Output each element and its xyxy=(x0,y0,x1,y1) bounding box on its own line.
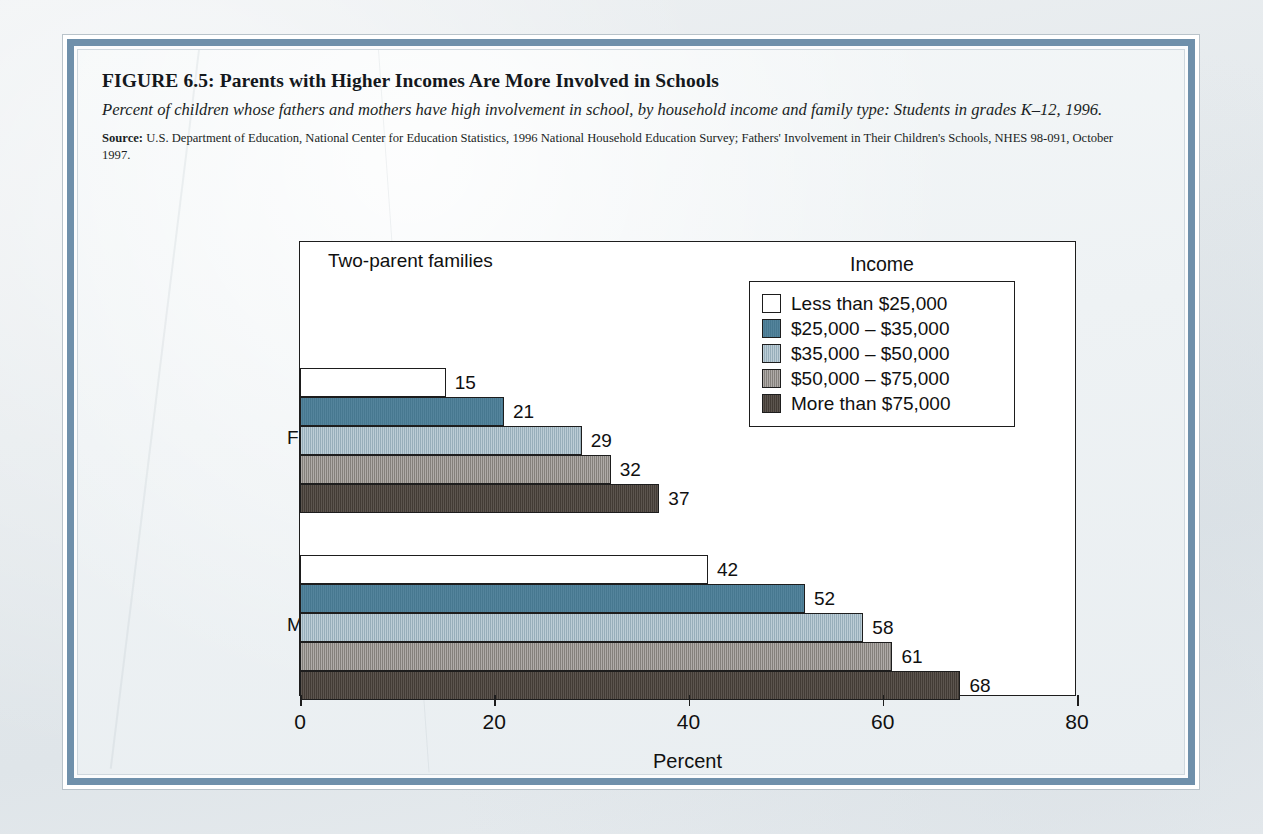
x-tick xyxy=(494,695,496,706)
legend-item[interactable]: More than $75,000 xyxy=(762,391,1002,416)
bar-value-label: 32 xyxy=(620,459,641,481)
legend-item[interactable]: $50,000 – $75,000 xyxy=(762,366,1002,391)
bar-row: 42 xyxy=(300,555,1075,584)
page-title: FIGURE 6.5: Parents with Higher Incomes … xyxy=(102,70,1156,92)
legend-item-label: $50,000 – $75,000 xyxy=(791,368,950,390)
legend-swatch-icon xyxy=(762,319,781,338)
bar-mothers-3[interactable] xyxy=(300,642,892,671)
x-tick-label: 40 xyxy=(677,710,700,734)
source-text: U.S. Department of Education, National C… xyxy=(102,131,1113,162)
legend-item[interactable]: $35,000 – $50,000 xyxy=(762,341,1002,366)
bar-mothers-2[interactable] xyxy=(300,613,863,642)
bar-row: 52 xyxy=(300,584,1075,613)
legend-title: Income xyxy=(749,253,1015,276)
panel-label: Two-parent families xyxy=(328,250,493,272)
bar-fathers-4[interactable] xyxy=(300,484,659,513)
x-tick xyxy=(883,695,885,706)
figure-header: FIGURE 6.5: Parents with Higher Incomes … xyxy=(102,70,1156,163)
legend-box: Less than $25,000$25,000 – $35,000$35,00… xyxy=(749,281,1015,427)
bar-fathers-1[interactable] xyxy=(300,397,504,426)
bar-value-label: 15 xyxy=(455,372,476,394)
x-tick-label: 80 xyxy=(1065,710,1088,734)
bar-mothers-1[interactable] xyxy=(300,584,805,613)
figure-subtitle: Percent of children whose fathers and mo… xyxy=(102,97,1148,123)
source-label: Source: xyxy=(102,131,143,145)
legend-swatch-icon xyxy=(762,344,781,363)
bar-value-label: 21 xyxy=(513,401,534,423)
bar-fathers-3[interactable] xyxy=(300,455,611,484)
bar-row: 32 xyxy=(300,455,1075,484)
bar-row: 58 xyxy=(300,613,1075,642)
bar-value-label: 68 xyxy=(969,675,990,697)
legend-item-label: $35,000 – $50,000 xyxy=(791,343,950,365)
x-axis: 020406080 xyxy=(300,695,1075,696)
x-tick-label: 20 xyxy=(483,710,506,734)
x-tick xyxy=(1077,695,1079,706)
bar-row: 29 xyxy=(300,426,1075,455)
legend-swatch-icon xyxy=(762,294,781,313)
figure-content: FIGURE 6.5: Parents with Higher Incomes … xyxy=(77,49,1185,775)
bar-value-label: 29 xyxy=(591,430,612,452)
x-tick xyxy=(300,695,302,706)
legend-swatch-icon xyxy=(762,369,781,388)
legend-item-label: Less than $25,000 xyxy=(791,293,947,315)
x-tick-label: 0 xyxy=(294,710,306,734)
x-tick-label: 60 xyxy=(871,710,894,734)
bar-value-label: 61 xyxy=(901,646,922,668)
legend-item[interactable]: Less than $25,000 xyxy=(762,291,1002,316)
legend-item-label: $25,000 – $35,000 xyxy=(791,318,950,340)
x-tick xyxy=(689,695,691,706)
x-axis-title: Percent xyxy=(299,750,1076,773)
bar-value-label: 37 xyxy=(668,488,689,510)
bar-row: 37 xyxy=(300,484,1075,513)
figure-outer-frame: FIGURE 6.5: Parents with Higher Incomes … xyxy=(62,34,1200,790)
legend-item[interactable]: $25,000 – $35,000 xyxy=(762,316,1002,341)
figure-border-band: FIGURE 6.5: Parents with Higher Incomes … xyxy=(67,39,1195,785)
bar-value-label: 58 xyxy=(872,617,893,639)
bar-value-label: 42 xyxy=(717,559,738,581)
legend: Income Less than $25,000$25,000 – $35,00… xyxy=(749,253,1015,427)
bar-value-label: 52 xyxy=(814,588,835,610)
figure-source: Source: U.S. Department of Education, Na… xyxy=(102,130,1142,163)
legend-item-label: More than $75,000 xyxy=(791,393,951,415)
bar-fathers-0[interactable] xyxy=(300,368,446,397)
bar-row: 61 xyxy=(300,642,1075,671)
bar-fathers-2[interactable] xyxy=(300,426,582,455)
legend-swatch-icon xyxy=(762,394,781,413)
bar-mothers-0[interactable] xyxy=(300,555,708,584)
